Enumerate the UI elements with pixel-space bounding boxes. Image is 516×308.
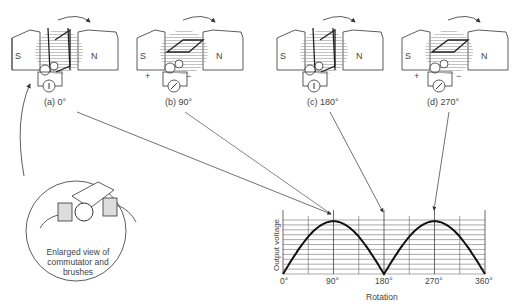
chart-xlabel: Rotation xyxy=(366,292,398,302)
output-voltage-chart xyxy=(283,210,485,274)
generator-panel-c xyxy=(277,16,383,92)
pole-s-c: S xyxy=(280,51,286,61)
pole-n-c: N xyxy=(356,51,363,61)
xtick-0: 0° xyxy=(280,276,288,286)
leader-b xyxy=(185,112,331,214)
polarity-plus-b: + xyxy=(145,71,150,81)
inset-caption-line-1: Enlarged view of xyxy=(36,247,120,257)
xtick-180: 180° xyxy=(375,276,393,286)
panel-a-caption: (a) 0° xyxy=(44,97,66,107)
polarity-minus-d: − xyxy=(456,71,461,81)
pole-s-a: S xyxy=(15,51,21,61)
inset-caption-line-2: commutator and xyxy=(36,257,120,267)
chart-ylabel: Output voltage xyxy=(272,219,281,271)
pole-n-a: N xyxy=(91,51,98,61)
pole-n-d: N xyxy=(481,51,488,61)
xtick-270: 270° xyxy=(425,276,443,286)
panel-c-caption: (c) 180° xyxy=(307,97,339,107)
pole-s-b: S xyxy=(140,51,146,61)
xtick-360: 360° xyxy=(475,276,493,286)
leader-c xyxy=(330,112,383,212)
inset-caption-line-3: brushes xyxy=(36,267,120,277)
leader-d xyxy=(434,112,449,210)
pole-s-d: S xyxy=(405,51,411,61)
inset-caption: Enlarged view of commutator and brushes xyxy=(36,247,120,277)
polarity-minus-b: − xyxy=(186,71,191,81)
panel-d-caption: (d) 270° xyxy=(427,97,459,107)
pole-n-b: N xyxy=(216,51,223,61)
panel-b-caption: (b) 90° xyxy=(165,97,192,107)
inset-callout-arrow xyxy=(20,84,30,176)
polarity-plus-d: + xyxy=(414,71,419,81)
xtick-90: 90° xyxy=(326,276,339,286)
generator-panel-a xyxy=(12,16,118,92)
